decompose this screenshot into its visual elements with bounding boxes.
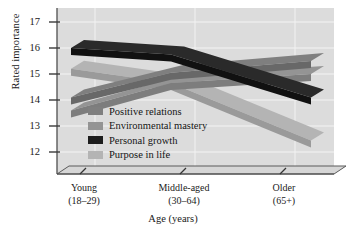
legend-label: Personal growth: [109, 135, 178, 146]
chart-legend: Positive relations Environmental mastery…: [88, 104, 207, 162]
legend-swatch-purpose-in-life: [88, 151, 103, 159]
x-tick-label-older: Older (65+): [238, 182, 330, 207]
legend-label: Environmental mastery: [109, 120, 207, 131]
legend-label: Positive relations: [109, 106, 182, 117]
x-tick-label-middle-aged: Middle-aged (30–64): [138, 182, 230, 207]
y-tick-label: 16: [14, 43, 40, 53]
x-tick-line1: Middle-aged: [158, 182, 209, 193]
legend-item: Personal growth: [88, 133, 207, 148]
chart-figure: Rated importance 17 16 15 14 13 12 Young…: [0, 0, 346, 234]
legend-swatch-environmental-mastery: [88, 122, 103, 130]
legend-swatch-personal-growth: [88, 136, 103, 144]
x-tick-line1: Young: [71, 182, 97, 193]
legend-item: Environmental mastery: [88, 119, 207, 134]
x-tick-line1: Older: [273, 182, 296, 193]
axis-floor: [57, 166, 346, 174]
x-tick-line2: (65+): [238, 195, 330, 208]
y-tick-label: 12: [14, 147, 40, 157]
y-tick-label: 14: [14, 95, 40, 105]
legend-item: Purpose in life: [88, 148, 207, 163]
legend-label: Purpose in life: [109, 149, 170, 160]
x-tick-label-young: Young (18–29): [38, 182, 130, 207]
legend-item: Positive relations: [88, 104, 207, 119]
x-tick-line2: (18–29): [38, 195, 130, 208]
y-tick-label: 17: [14, 17, 40, 27]
x-axis-title: Age (years): [0, 213, 346, 224]
x-tick-line2: (30–64): [138, 195, 230, 208]
y-tick-label: 15: [14, 69, 40, 79]
legend-swatch-positive-relations: [88, 107, 103, 115]
y-tick-label: 13: [14, 121, 40, 131]
